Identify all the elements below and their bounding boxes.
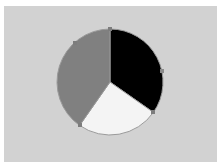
marker-upper-left [73, 41, 77, 45]
pie-slice-group [57, 29, 163, 135]
pie-chart[interactable] [4, 6, 217, 162]
marker-bottom-right [151, 110, 155, 114]
marker-right [160, 69, 164, 73]
marker-top [108, 27, 112, 31]
pie-plot-panel [4, 6, 217, 162]
marker-bottom-left [78, 123, 82, 127]
figure-root [0, 0, 222, 165]
